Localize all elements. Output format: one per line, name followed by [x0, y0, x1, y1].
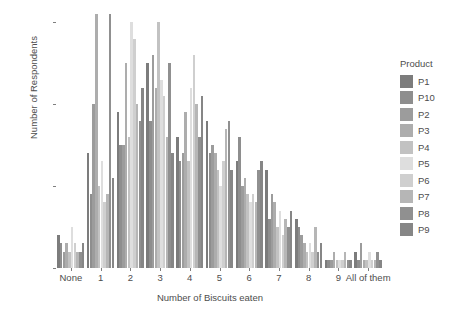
legend-item-label: P8 [418, 208, 430, 219]
bar-group [57, 14, 84, 268]
bar [349, 260, 352, 268]
legend-item-label: P2 [418, 109, 430, 120]
legend-swatch-icon [400, 174, 413, 187]
legend-item[interactable]: P1 [400, 73, 458, 90]
y-tick-mark [53, 268, 56, 269]
legend-item[interactable]: P6 [400, 172, 458, 189]
x-tick-mark [160, 268, 161, 271]
legend-item[interactable]: P3 [400, 123, 458, 140]
legend-swatch-icon [400, 75, 413, 88]
x-tick-label: 3 [157, 272, 162, 283]
x-tick-mark [249, 268, 250, 271]
bar [201, 96, 204, 268]
bar [379, 260, 382, 268]
bar [260, 161, 263, 268]
y-axis-title: Number of Respondents [28, 0, 39, 178]
legend-item-label: P9 [418, 224, 430, 235]
bar [320, 243, 323, 268]
legend-title: Product [400, 58, 458, 69]
legend-swatch-icon [400, 223, 413, 236]
bar [82, 243, 85, 268]
legend: Product P1P10P2P3P4P5P6P7P8P9 [400, 58, 458, 238]
legend-item[interactable]: P7 [400, 189, 458, 206]
bar-group [117, 14, 144, 268]
x-tick-label: 1 [98, 272, 103, 283]
x-axis-title: Number of Biscuits eaten [45, 292, 375, 303]
x-tick-mark [190, 268, 191, 271]
x-tick-label: All of them [346, 272, 391, 283]
plot-area [56, 14, 383, 268]
legend-swatch-icon [400, 207, 413, 220]
legend-swatch-icon [400, 91, 413, 104]
x-tick-label: 2 [128, 272, 133, 283]
legend-item-label: P10 [418, 92, 435, 103]
legend-item-label: P5 [418, 158, 430, 169]
bar [112, 178, 115, 268]
x-tick-label: 9 [336, 272, 341, 283]
legend-swatch-icon [400, 108, 413, 121]
bar [230, 170, 233, 268]
bar-group [206, 14, 233, 268]
x-tick-mark [101, 268, 102, 271]
legend-item-label: P6 [418, 175, 430, 186]
bar-group [146, 14, 173, 268]
legend-item[interactable]: P5 [400, 156, 458, 173]
bars-container [56, 14, 383, 268]
legend-swatch-icon [400, 141, 413, 154]
bar [290, 211, 293, 268]
legend-item-label: P1 [418, 76, 430, 87]
x-tick-mark [130, 268, 131, 271]
x-tick-label: 8 [306, 272, 311, 283]
legend-item-label: P7 [418, 191, 430, 202]
x-tick-label: 4 [187, 272, 192, 283]
x-tick-label: 7 [276, 272, 281, 283]
legend-item[interactable]: P8 [400, 205, 458, 222]
bar-group [265, 14, 292, 268]
legend-item[interactable]: P4 [400, 139, 458, 156]
x-tick-mark [338, 268, 339, 271]
bar-group [87, 14, 114, 268]
legend-items: P1P10P2P3P4P5P6P7P8P9 [400, 73, 458, 238]
legend-item-label: P3 [418, 125, 430, 136]
bar-group [325, 14, 352, 268]
x-tick-mark [71, 268, 72, 271]
x-tick-label: 6 [247, 272, 252, 283]
x-tick-mark [309, 268, 310, 271]
bar-group [354, 14, 381, 268]
bar [141, 88, 144, 268]
x-tick-label: None [60, 272, 83, 283]
bar-group [295, 14, 322, 268]
legend-swatch-icon [400, 190, 413, 203]
legend-item[interactable]: P9 [400, 222, 458, 239]
x-tick-mark [368, 268, 369, 271]
legend-swatch-icon [400, 124, 413, 137]
x-tick-mark [220, 268, 221, 271]
bar-group [236, 14, 263, 268]
legend-swatch-icon [400, 157, 413, 170]
x-tick-label: 5 [217, 272, 222, 283]
bar [171, 153, 174, 268]
x-tick-mark [279, 268, 280, 271]
bar-chart: Number of Respondents 0102030 None123456… [0, 0, 459, 320]
bar-group [176, 14, 203, 268]
legend-item[interactable]: P2 [400, 106, 458, 123]
legend-item-label: P4 [418, 142, 430, 153]
legend-item[interactable]: P10 [400, 90, 458, 107]
